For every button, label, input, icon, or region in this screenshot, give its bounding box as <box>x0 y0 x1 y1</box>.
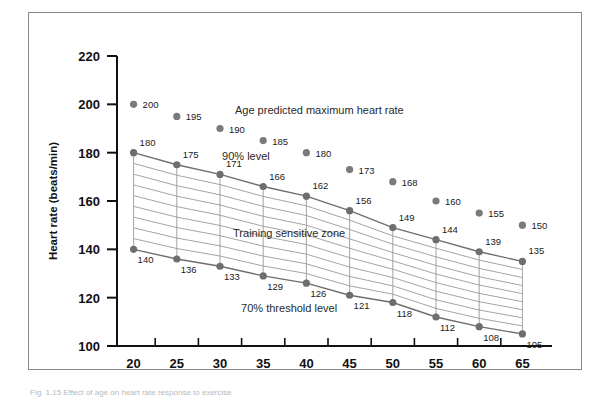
data-point-label: 144 <box>442 224 458 235</box>
data-point-label: 160 <box>445 196 461 207</box>
figure-caption: Fig. 1.15 Effect of age on heart rate re… <box>30 388 590 397</box>
data-point-label: 133 <box>224 271 240 282</box>
chart-annotation: 70% threshold level <box>241 302 337 314</box>
x-tick-label: 60 <box>472 356 486 368</box>
data-point <box>476 248 483 255</box>
series-line <box>134 153 523 262</box>
data-point <box>476 209 483 216</box>
data-point <box>346 292 353 299</box>
data-point-label: 166 <box>269 171 285 182</box>
y-tick-label: 140 <box>78 242 100 257</box>
data-point <box>389 224 396 231</box>
y-tick-label: 220 <box>78 49 100 64</box>
data-point <box>389 178 396 185</box>
data-point-label: 108 <box>483 332 499 343</box>
x-tick-label: 25 <box>170 356 184 368</box>
figure-panel: 1001201401601802002202025303540455055606… <box>28 12 582 370</box>
x-tick-label: 40 <box>299 356 313 368</box>
data-point-label: 195 <box>186 111 202 122</box>
x-tick-label: 50 <box>386 356 400 368</box>
data-point-label: 135 <box>528 245 544 256</box>
chart-annotation: Training sensitive zone <box>233 227 345 239</box>
x-tick-label: 30 <box>213 356 227 368</box>
data-point <box>303 280 310 287</box>
data-point-label: 185 <box>272 136 288 147</box>
data-point-label: 149 <box>399 212 415 223</box>
data-point-label: 190 <box>229 124 245 135</box>
data-point-label: 162 <box>312 180 328 191</box>
y-tick-label: 100 <box>78 339 100 354</box>
data-point <box>130 246 137 253</box>
x-tick-label: 65 <box>515 356 529 368</box>
data-point-label: 150 <box>531 220 547 231</box>
data-point <box>519 222 526 229</box>
data-point <box>346 166 353 173</box>
hatch-line <box>134 196 523 294</box>
data-point <box>476 323 483 330</box>
data-point-label: 121 <box>354 300 370 311</box>
data-point <box>519 330 526 337</box>
data-point <box>432 197 439 204</box>
data-point <box>389 299 396 306</box>
y-tick-label: 120 <box>78 291 100 306</box>
data-point <box>130 101 137 108</box>
data-point <box>303 149 310 156</box>
y-tick-label: 200 <box>78 97 100 112</box>
data-point-label: 168 <box>402 177 418 188</box>
y-axis-title: Heart rate (beats/min) <box>47 142 59 260</box>
data-point <box>303 193 310 200</box>
data-point-label: 175 <box>183 149 199 160</box>
data-point <box>216 171 223 178</box>
point-value-labels: 2001951901851801731681601551501801751711… <box>138 99 548 350</box>
x-tick-label: 45 <box>342 356 356 368</box>
data-point <box>432 236 439 243</box>
series-line <box>134 249 523 334</box>
data-point-label: 180 <box>140 137 156 148</box>
data-point <box>432 313 439 320</box>
data-point-label: 200 <box>143 99 159 110</box>
data-point-label: 180 <box>315 148 331 159</box>
y-tick-label: 160 <box>78 194 100 209</box>
data-point-label: 139 <box>485 236 501 247</box>
x-tick-label: 55 <box>429 356 443 368</box>
data-point <box>216 263 223 270</box>
data-point <box>130 149 137 156</box>
data-point-label: 118 <box>397 308 412 319</box>
data-point <box>346 207 353 214</box>
heart-rate-chart: 1001201401601802002202025303540455055606… <box>29 13 580 368</box>
y-tick-label: 180 <box>78 146 100 161</box>
data-point-label: 112 <box>440 322 455 333</box>
data-point <box>519 258 526 265</box>
data-point-label: 129 <box>267 281 283 292</box>
hatch-line <box>134 206 523 301</box>
data-point <box>260 183 267 190</box>
data-point <box>173 255 180 262</box>
data-point <box>173 113 180 120</box>
data-point <box>173 161 180 168</box>
data-point <box>260 272 267 279</box>
data-point-label: 140 <box>138 254 154 265</box>
data-point-label: 136 <box>181 264 197 275</box>
data-point <box>260 137 267 144</box>
x-tick-label: 20 <box>126 356 140 368</box>
chart-annotation: Age predicted maximum heart rate <box>235 104 404 116</box>
data-point-label: 155 <box>488 208 504 219</box>
data-point-label: 126 <box>310 288 326 299</box>
data-point-label: 156 <box>356 195 372 206</box>
chart-annotation: 90% level <box>222 150 270 162</box>
data-point <box>216 125 223 132</box>
x-tick-label: 35 <box>256 356 270 368</box>
data-point-label: 173 <box>359 165 375 176</box>
data-point-label: 105 <box>526 339 542 350</box>
